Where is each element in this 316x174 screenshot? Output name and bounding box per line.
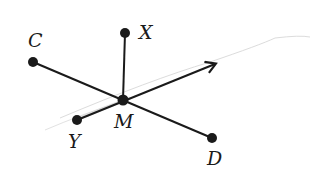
diagram-svg: C X D Y M <box>0 0 316 174</box>
point-m <box>118 95 129 106</box>
label-m: M <box>113 110 134 132</box>
geometry-diagram: C X D Y M <box>0 0 316 174</box>
label-c: C <box>28 29 43 51</box>
ray-y-m <box>77 64 215 120</box>
segment-m-x <box>123 33 125 100</box>
point-d <box>207 133 217 143</box>
label-x: X <box>137 21 154 43</box>
point-x <box>120 28 130 38</box>
point-c <box>28 57 38 67</box>
label-y: Y <box>68 130 83 152</box>
point-y <box>72 115 82 125</box>
label-d: D <box>206 147 222 169</box>
